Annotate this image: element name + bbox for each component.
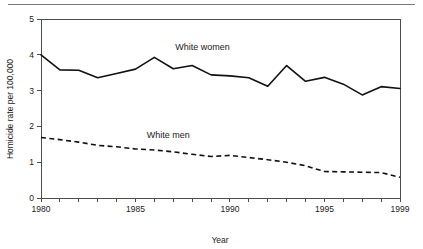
x-axis-tick-labels: 19801985199019951999 xyxy=(32,204,410,214)
y-axis-tick-labels: 012345 xyxy=(29,14,34,203)
x-tick-label-1990: 1990 xyxy=(220,204,239,214)
line-chart: 19801985199019951999 012345 White women … xyxy=(0,0,423,249)
y-tick-label-0: 0 xyxy=(29,193,34,203)
x-axis-tick-marks xyxy=(41,198,400,202)
series-line-white-women xyxy=(41,55,400,95)
figure-container: 19801985199019951999 012345 White women … xyxy=(0,0,423,249)
y-tick-label-2: 2 xyxy=(29,121,34,131)
x-tick-label-1980: 1980 xyxy=(32,204,51,214)
y-tick-label-5: 5 xyxy=(29,14,34,24)
y-axis-tick-marks xyxy=(37,19,41,198)
x-tick-label-1999: 1999 xyxy=(391,204,410,214)
series-label-white-women: White women xyxy=(175,42,230,52)
series-label-white-men: White men xyxy=(147,130,190,140)
chart-series-group xyxy=(41,55,400,177)
series-line-white-men xyxy=(41,138,400,178)
x-tick-label-1995: 1995 xyxy=(315,204,334,214)
y-tick-label-1: 1 xyxy=(29,157,34,167)
y-axis-title: Homicide rate per 100,000 xyxy=(5,59,15,159)
x-tick-label-1985: 1985 xyxy=(126,204,145,214)
x-axis-title: Year xyxy=(211,235,228,245)
y-tick-label-4: 4 xyxy=(29,50,34,60)
y-tick-label-3: 3 xyxy=(29,86,34,96)
